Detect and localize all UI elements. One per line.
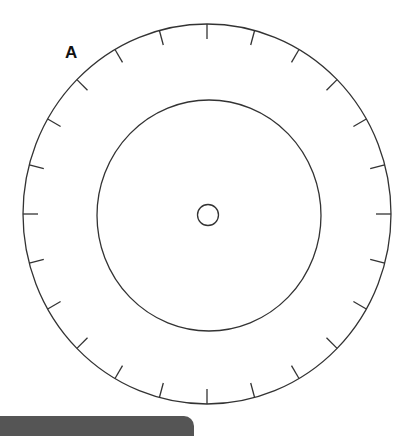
tick-mark <box>353 119 366 127</box>
tick-marks <box>23 24 391 404</box>
tick-mark <box>48 119 61 127</box>
tick-mark <box>29 259 44 263</box>
tick-mark <box>29 165 44 169</box>
tick-mark <box>327 338 338 349</box>
tick-mark <box>159 383 163 398</box>
tick-mark <box>115 50 123 63</box>
tick-mark <box>251 31 255 46</box>
tick-mark <box>77 338 88 349</box>
inner-circle <box>97 100 321 331</box>
tick-mark <box>251 383 255 398</box>
bottom-bar <box>0 416 194 436</box>
tick-mark <box>292 366 300 379</box>
tick-mark <box>159 31 163 46</box>
tick-mark <box>292 50 300 63</box>
tick-mark <box>370 259 385 263</box>
tick-mark <box>115 366 123 379</box>
tick-mark <box>327 80 338 91</box>
tick-mark <box>353 302 366 310</box>
tick-mark <box>77 80 88 91</box>
tick-mark <box>370 165 385 169</box>
tick-mark <box>48 302 61 310</box>
center-circle <box>198 205 219 226</box>
label-a: A <box>65 44 77 61</box>
